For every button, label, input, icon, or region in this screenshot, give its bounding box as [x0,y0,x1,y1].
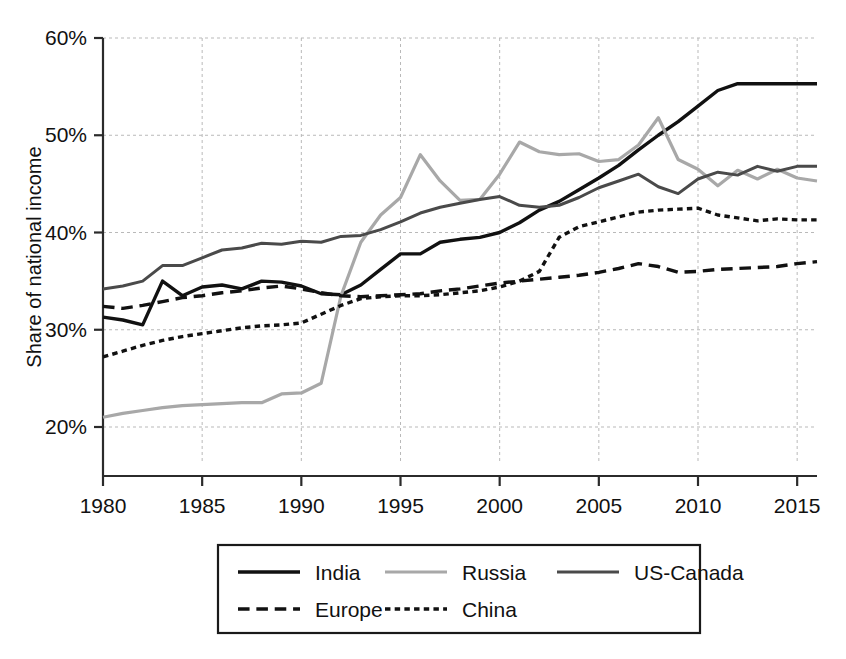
legend-label-india: India [315,561,361,584]
axes [103,38,817,476]
x-tick-label: 2000 [476,494,523,517]
legend-label-europe: Europe [315,598,383,621]
legend-label-china: China [462,598,517,621]
y-tick-label: 30% [45,318,87,341]
x-tick-label: 2010 [675,494,722,517]
x-tick-label: 1990 [278,494,325,517]
x-tick-label: 2015 [774,494,821,517]
y-tick-label: 40% [45,221,87,244]
x-tick-label: 2005 [575,494,622,517]
chart-legend: IndiaRussiaUS-CanadaEuropeChina [218,545,744,633]
x-tick-label: 1985 [179,494,226,517]
legend-label-russia: Russia [462,561,527,584]
gridlines [103,38,817,462]
y-tick-label: 50% [45,123,87,146]
y-axis-ticks: 20%30%40%50%60% [45,26,103,438]
y-tick-label: 60% [45,26,87,49]
line-chart: 20%30%40%50%60% 198019851990199520002005… [0,0,846,659]
series-lines [103,84,817,418]
x-tick-label: 1995 [377,494,424,517]
legend-label-us-canada: US-Canada [634,561,744,584]
y-tick-label: 20% [45,415,87,438]
legend-box [218,545,700,633]
y-axis-title: Share of national income [23,146,45,367]
chart-container: 20%30%40%50%60% 198019851990199520002005… [0,0,846,659]
series-line-china [103,208,817,357]
series-line-russia [103,118,817,418]
x-tick-label: 1980 [80,494,127,517]
x-axis-ticks: 19801985199019952000200520102015 [80,476,821,517]
